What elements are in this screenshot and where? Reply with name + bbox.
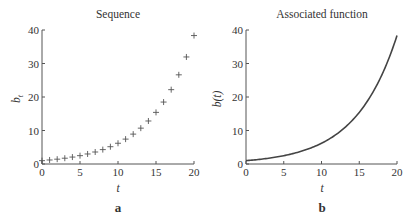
x-tick-label: 15	[151, 166, 163, 178]
x-tick-label: 5	[77, 166, 83, 178]
x-tick-label: 0	[243, 166, 249, 178]
plus-marker	[176, 72, 182, 78]
sequence-points	[39, 33, 197, 164]
function-title: Associated function	[276, 8, 368, 20]
y-tick-label: 20	[232, 91, 244, 103]
panel-label-a: a	[115, 200, 122, 215]
function-panel: Associated function 01020304005101520 b(…	[211, 8, 403, 215]
y-tick-label: 10	[232, 125, 244, 137]
plus-marker	[115, 140, 121, 146]
y-tick-label: 30	[232, 58, 244, 70]
sequence-y-axis-label: bt	[10, 94, 25, 103]
plus-marker	[92, 149, 98, 155]
function-curve	[246, 36, 397, 161]
y-tick-label: 40	[232, 24, 244, 36]
plus-marker	[77, 153, 83, 159]
x-tick-label: 20	[189, 166, 201, 178]
plus-marker	[47, 157, 53, 163]
plus-marker	[39, 158, 45, 164]
panel-label-b: b	[318, 200, 325, 215]
function-y-axis-label: b(t)	[211, 91, 224, 108]
x-tick-label: 15	[354, 166, 366, 178]
sequence-panel: Sequence 01020304005101520 bt t a	[10, 8, 200, 215]
x-tick-label: 5	[281, 166, 287, 178]
y-tick-label: 10	[28, 125, 40, 137]
plus-marker	[168, 87, 174, 93]
plus-marker	[85, 151, 91, 157]
x-tick-label: 20	[392, 166, 404, 178]
plus-marker	[69, 154, 75, 160]
plus-marker	[191, 33, 197, 39]
figure: Sequence 01020304005101520 bt t a Associ…	[0, 0, 419, 220]
x-tick-label: 0	[39, 166, 45, 178]
y-tick-label: 40	[28, 24, 40, 36]
sequence-axes: 01020304005101520	[28, 24, 200, 178]
plus-marker	[62, 155, 68, 161]
x-tick-label: 10	[113, 166, 125, 178]
plus-marker	[161, 99, 167, 105]
plus-marker	[54, 156, 60, 162]
plus-marker	[183, 54, 189, 60]
y-tick-label: 30	[28, 58, 40, 70]
plus-marker	[130, 131, 136, 137]
sequence-title: Sequence	[96, 8, 140, 21]
plus-marker	[100, 147, 106, 153]
sequence-x-axis-label: t	[116, 182, 120, 194]
plus-marker	[138, 125, 144, 131]
function-x-axis-label: t	[320, 182, 324, 194]
plus-marker	[153, 109, 159, 115]
y-tick-label: 20	[28, 91, 40, 103]
plus-marker	[123, 136, 129, 142]
function-axes: 01020304005101520	[232, 24, 403, 178]
plus-marker	[107, 144, 113, 150]
x-tick-label: 10	[316, 166, 328, 178]
plus-marker	[145, 118, 151, 124]
